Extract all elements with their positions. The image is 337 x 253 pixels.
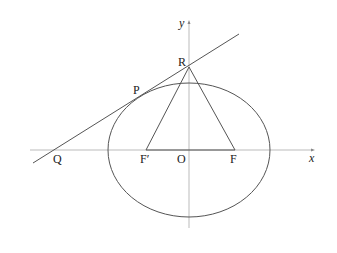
y-axis-arrow-icon (188, 20, 191, 24)
y-axis-label: y (178, 16, 185, 30)
point-f-prime-label: F′ (140, 152, 150, 166)
origin-label: O (177, 152, 186, 166)
ellipse-diagram: y x R P Q F′ O F (0, 0, 337, 253)
x-axis-label: x (308, 151, 315, 165)
point-q-label: Q (53, 152, 62, 166)
tangent-line (33, 34, 239, 163)
point-r-label: R (178, 55, 186, 69)
point-p-label: P (133, 83, 140, 97)
triangle-rff (146, 67, 235, 150)
point-f-label: F (230, 152, 237, 166)
